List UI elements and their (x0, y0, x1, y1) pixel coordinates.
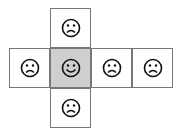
face-bottom (50, 88, 91, 128)
frown-face-icon (102, 58, 122, 78)
smile-face-icon (61, 58, 81, 78)
frown-face-icon (61, 98, 81, 118)
frown-face-icon (143, 58, 163, 78)
cube-net-diagram (0, 0, 178, 134)
face-far-right (132, 48, 173, 88)
face-top (50, 8, 91, 48)
frown-face-icon (20, 58, 40, 78)
face-right (91, 48, 132, 88)
frown-face-icon (61, 18, 81, 38)
face-center (50, 48, 91, 88)
face-left (9, 48, 50, 88)
